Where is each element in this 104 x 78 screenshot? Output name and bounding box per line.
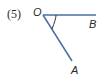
angle-svg — [0, 0, 104, 78]
angle-diagram: (5) O B A — [0, 0, 104, 78]
angle-arc-icon — [52, 15, 56, 29]
ray-oa — [43, 15, 72, 61]
